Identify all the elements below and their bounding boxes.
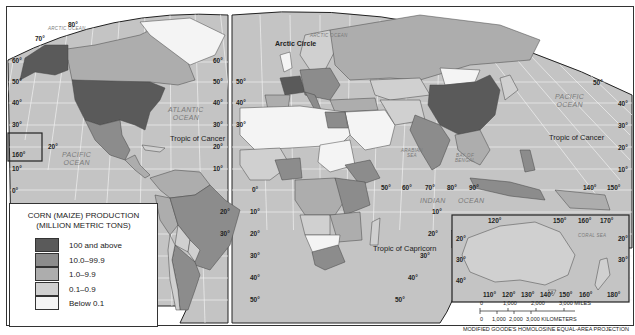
lat-label: 50° (12, 79, 22, 86)
lat-label: 10° (12, 166, 22, 173)
lon-label: 120° (488, 218, 501, 225)
pacific-ocean-east-label: PACIFIC OCEAN (555, 93, 584, 109)
lon-label: 140° (540, 292, 553, 299)
lon-label: 0° (252, 187, 258, 194)
lat-label: 40° (12, 100, 22, 107)
legend-item: 10.0–99.9 (35, 253, 157, 268)
legend-item: Below 0.1 (35, 297, 157, 312)
indian-ocean-label-2: OCEAN (458, 197, 484, 205)
legend-swatch (35, 267, 59, 281)
coral-sea-label: CORAL SEA (578, 233, 606, 238)
pacific-west-line2: OCEAN (62, 159, 91, 167)
lon-label: 50° (381, 185, 391, 192)
lat-label: 10° (432, 209, 442, 216)
lon-label: 170° (600, 218, 613, 225)
pacific-west-line1: PACIFIC (62, 151, 91, 159)
lon-label: 150° (607, 185, 620, 192)
indian-ocean-label: INDIAN (420, 197, 446, 205)
projection-label: MODIFIED GOODE'S HOMOLOSINE EQUAL-AREA P… (463, 326, 629, 332)
pacific-east-line2: OCEAN (555, 101, 584, 109)
turkey (330, 98, 378, 112)
lon-label: 160° (578, 218, 591, 225)
atlantic-line1: ATLANTIC (168, 106, 204, 114)
legend-swatch (35, 282, 59, 296)
lat-label: 50° (395, 297, 405, 304)
legend-label: 100 and above (69, 241, 122, 250)
lat-label: 30° (12, 122, 22, 129)
legend-item: 100 and above (35, 238, 157, 253)
lat-label: 20° (618, 236, 628, 243)
legend-item: 0.1–0.9 (35, 282, 157, 297)
lat-label: 40° (618, 101, 628, 108)
lat-label: 30° (236, 122, 246, 129)
lon-label: 90° (469, 185, 479, 192)
lat-label: 30° (420, 253, 430, 260)
scale-miles-tick: 0 (480, 300, 483, 306)
lon-label: 80° (447, 185, 457, 192)
lon-label: 130° (521, 292, 534, 299)
legend: CORN (MAIZE) PRODUCTION (MILLION METRIC … (9, 203, 158, 327)
lat-label: 20° (220, 209, 230, 216)
lat-label: 30° (250, 253, 260, 260)
lat-label: 10° (618, 167, 628, 174)
egypt (325, 112, 348, 128)
scale-miles-tick: 2,000 (531, 300, 545, 306)
scale-bar (480, 308, 575, 314)
legend-item: 1.0–9.9 (35, 267, 157, 282)
lat-label: 80° (68, 22, 78, 29)
legend-swatch (35, 238, 59, 252)
lat-label: 40° (213, 100, 223, 107)
legend-swatch (35, 253, 59, 267)
lon-label: 110° (483, 292, 496, 299)
lat-label: 10° (213, 166, 223, 173)
lat-label: 50° (593, 80, 603, 87)
lat-label: 10° (250, 209, 260, 216)
lon-label: 70° (425, 185, 435, 192)
lat-label: 40° (250, 275, 260, 282)
atlantic-ocean-label: ATLANTIC OCEAN (168, 106, 204, 122)
lon-label: 160° (579, 292, 592, 299)
scale-km-tick: 0 (480, 316, 483, 322)
lat-label: 50° (213, 79, 223, 86)
legend-title: CORN (MAIZE) PRODUCTION (MILLION METRIC … (10, 211, 157, 230)
scale-miles-tick: 1,000 (503, 300, 517, 306)
lat-label: 40° (456, 278, 466, 285)
lon-label: 140° (583, 185, 596, 192)
lat-label: 20° (428, 231, 438, 238)
lat-label: 20° (456, 236, 466, 243)
legend-swatch (35, 296, 59, 310)
lat-label: 30° (618, 123, 628, 130)
lat-label: 30° (213, 122, 223, 129)
arctic-ocean-east-label: ARCTIC OCEAN (310, 33, 348, 38)
legend-label: 0.1–0.9 (69, 285, 96, 294)
lat-label: 30° (618, 257, 628, 264)
bengal-line2: BENGAL (455, 158, 475, 163)
lat-label: 20° (250, 231, 260, 238)
tropic-cancer-west-label: Tropic of Cancer (170, 134, 225, 143)
lat-label: 20° (618, 145, 628, 152)
lat-label: 70° (35, 36, 45, 43)
lat-label: 60° (12, 58, 22, 65)
angola (300, 215, 330, 235)
legend-title-line1: CORN (MAIZE) PRODUCTION (10, 211, 157, 221)
scale-km-tick: 2,000 (509, 316, 523, 322)
atlantic-line2: OCEAN (168, 114, 204, 122)
arctic-circle-label: Arctic Circle (275, 40, 316, 47)
lat-label: 0° (12, 188, 18, 195)
lon-label: 160° (12, 152, 25, 159)
scale-km-tick: 1,000 (492, 316, 506, 322)
scale-miles-tick: 3,000 MILES (559, 300, 591, 306)
lat-label: 50° (236, 79, 246, 86)
bay-of-bengal-label: BAY OF BENGAL (455, 153, 475, 163)
lon-label: 150° (559, 292, 572, 299)
lat-label: 30° (220, 231, 230, 238)
arabian-line2: SEA (401, 153, 423, 158)
scale-km-tick: 3,000 KILOMETERS (526, 316, 577, 322)
lon-label: 150° (553, 218, 566, 225)
legend-label: 10.0–99.9 (69, 256, 105, 265)
lat-label: 40° (236, 100, 246, 107)
legend-title-line2: (MILLION METRIC TONS) (10, 221, 157, 231)
lat-label: 50° (250, 297, 260, 304)
lon-label: 60° (402, 185, 412, 192)
lat-label: 20° (48, 144, 58, 151)
